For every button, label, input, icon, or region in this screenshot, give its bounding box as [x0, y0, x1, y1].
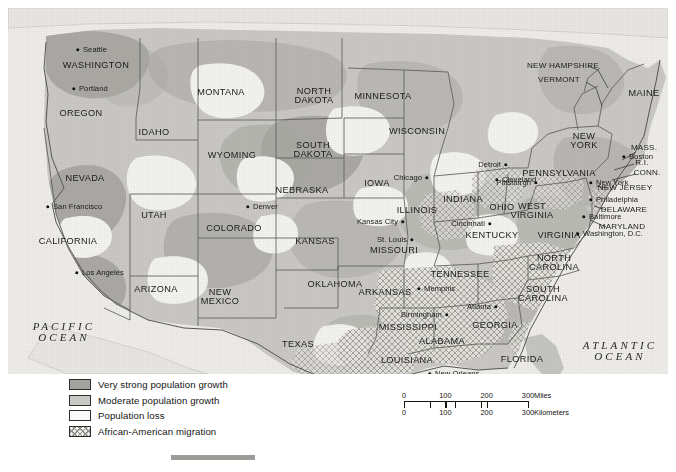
scale-miles-bar — [404, 401, 584, 408]
scale-km-labels: 0100200300Kilometers — [404, 408, 584, 418]
miles-tick-0: 0 — [402, 391, 406, 400]
scale-miles-labels: 0100200300Miles — [404, 391, 584, 401]
us-base-map — [8, 8, 668, 374]
map-legend: Very strong population growthModerate po… — [69, 377, 228, 439]
miles-unit-label: Miles — [534, 391, 551, 400]
legend-item-population-loss: Population loss — [69, 408, 228, 424]
legend-item-very-strong-population-growth: Very strong population growth — [69, 377, 228, 393]
miles-tick-300: 300 — [522, 391, 534, 400]
legend-label-african-american-migration: African-American migration — [98, 426, 216, 437]
kilometers-tick-300: 300 — [522, 408, 534, 417]
map-plate: PACIFIC OCEANATLANTIC OCEANGULF OF MEXIC… — [8, 8, 668, 374]
city-dot-new-orleans — [428, 372, 431, 374]
legend-item-moderate-population-growth: Moderate population growth — [69, 393, 228, 409]
legend-swatch-african-american-migration — [69, 426, 91, 437]
miles-tick-200: 200 — [480, 391, 492, 400]
legend-swatch-moderate-population-growth — [69, 395, 91, 406]
kilometers-tick-0: 0 — [402, 408, 406, 417]
map-figure: PACIFIC OCEANATLANTIC OCEANGULF OF MEXIC… — [0, 0, 676, 472]
legend-swatch-population-loss — [69, 410, 91, 421]
legend-label-very-strong-population-growth: Very strong population growth — [98, 379, 228, 390]
bottom-rule — [171, 455, 255, 460]
map-scale-bar: 0100200300Miles 0100200300Kilometers — [404, 391, 584, 418]
legend-swatch-very-strong-population-growth — [69, 379, 91, 390]
kilometers-tick-100: 100 — [439, 408, 451, 417]
legend-item-african-american-migration: African-American migration — [69, 424, 228, 440]
legend-label-moderate-population-growth: Moderate population growth — [98, 395, 220, 406]
miles-tick-100: 100 — [439, 391, 451, 400]
kilometers-tick-200: 200 — [480, 408, 492, 417]
kilometers-unit-label: Kilometers — [534, 408, 569, 417]
legend-label-population-loss: Population loss — [98, 410, 165, 421]
